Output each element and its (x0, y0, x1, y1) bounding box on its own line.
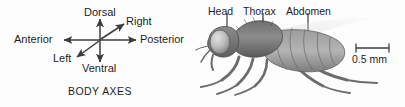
fly-compound-eye (210, 30, 230, 54)
arrow-right (101, 24, 124, 39)
fly-mouthparts (196, 46, 213, 70)
part-label-abdomen: Abdomen (286, 6, 331, 17)
axis-label-right: Right (126, 16, 152, 27)
axis-label-anterior: Anterior (14, 34, 53, 45)
scale-bar (356, 44, 389, 53)
scale-bar-label: 0.5 mm (352, 54, 387, 65)
part-label-head: Head (208, 6, 233, 17)
arrow-left (77, 41, 99, 57)
figure-drosophila-body-axes: Dorsal Ventral Anterior Posterior Right … (0, 0, 405, 107)
part-label-thorax: Thorax (243, 6, 276, 17)
axis-label-dorsal: Dorsal (84, 7, 116, 18)
fly-illustration-panel: Head Thorax Abdomen 0.5 mm (195, 0, 405, 107)
axis-label-left: Left (53, 53, 71, 64)
body-axes-diagram: Dorsal Ventral Anterior Posterior Right … (0, 0, 200, 107)
axis-label-posterior: Posterior (140, 34, 184, 45)
axis-label-ventral: Ventral (82, 63, 116, 74)
body-axes-caption: BODY AXES (68, 86, 132, 97)
